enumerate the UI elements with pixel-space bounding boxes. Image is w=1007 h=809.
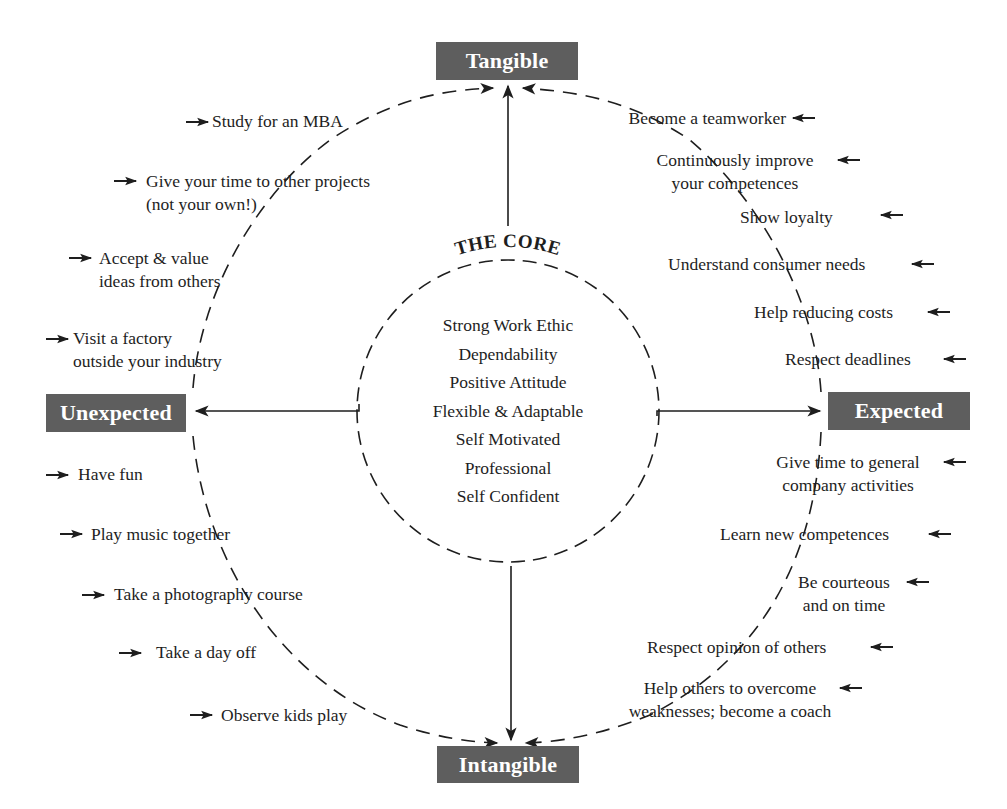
list-item: Visit a factory outside your industry xyxy=(73,327,222,373)
list-item: Respect deadlines xyxy=(785,348,911,371)
node-tangible: Tangible xyxy=(436,42,578,80)
list-item: Give your time to other projects (not yo… xyxy=(146,170,370,216)
node-intangible-label: Intangible xyxy=(459,752,558,778)
node-expected-label: Expected xyxy=(855,398,943,424)
list-item: Take a day off xyxy=(156,641,256,664)
core-title-arc: THE CORE xyxy=(440,230,576,262)
core-title: THE CORE xyxy=(452,230,563,259)
node-intangible: Intangible xyxy=(437,746,579,783)
list-item: Understand consumer needs xyxy=(668,253,865,276)
node-expected: Expected xyxy=(828,392,970,430)
list-item: Play music together xyxy=(91,523,230,546)
node-unexpected-label: Unexpected xyxy=(60,400,172,426)
list-item: Help reducing costs xyxy=(754,301,893,324)
list-item: Show loyalty xyxy=(740,206,833,229)
core-value: Strong Work Ethic xyxy=(398,311,618,340)
list-item: Accept & value ideas from others xyxy=(99,247,221,293)
list-item: Learn new competences xyxy=(720,523,889,546)
list-item: Be courteous and on time xyxy=(786,571,902,617)
list-item: Help others to overcome weaknesses; beco… xyxy=(614,677,846,723)
core-value: Self Motivated xyxy=(398,425,618,454)
core-value: Flexible & Adaptable xyxy=(398,397,618,426)
list-item: Become a teamworker xyxy=(629,107,786,130)
core-value: Self Confident xyxy=(398,482,618,511)
list-item: Give time to general company activities xyxy=(758,451,938,497)
list-item: Observe kids play xyxy=(221,704,347,727)
svg-text:THE CORE: THE CORE xyxy=(452,230,563,259)
list-item: Have fun xyxy=(78,463,143,486)
core-values-list: Strong Work Ethic Dependability Positive… xyxy=(398,311,618,511)
list-item: Respect opinion of others xyxy=(647,636,826,659)
list-item: Study for an MBA xyxy=(212,110,343,133)
core-value: Professional xyxy=(398,454,618,483)
node-unexpected: Unexpected xyxy=(46,394,186,432)
node-tangible-label: Tangible xyxy=(466,48,549,74)
core-value: Positive Attitude xyxy=(398,368,618,397)
list-item: Take a photography course xyxy=(114,583,303,606)
list-item: Continuously improve your competences xyxy=(640,149,830,195)
core-value: Dependability xyxy=(398,340,618,369)
